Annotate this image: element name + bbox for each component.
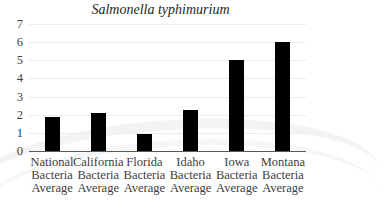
bar [45, 117, 60, 151]
plot-area: 01234567 [29, 24, 306, 151]
bar [275, 42, 290, 151]
gridline [29, 115, 306, 116]
gridline [29, 24, 306, 25]
y-tick-label: 0 [5, 145, 23, 157]
x-tick-label: MontanaBacteriaAverage [253, 156, 313, 195]
bar [229, 60, 244, 151]
gridline [29, 60, 306, 61]
chart-title: Salmonella typhimurium [0, 2, 321, 18]
gridline [29, 97, 306, 98]
bar [137, 134, 152, 151]
y-tick-label: 6 [5, 36, 23, 48]
y-tick-label: 2 [5, 109, 23, 121]
y-tick-label: 7 [5, 18, 23, 30]
gridline [29, 42, 306, 43]
y-tick-label: 1 [5, 127, 23, 139]
y-tick-label: 3 [5, 91, 23, 103]
y-tick-label: 4 [5, 72, 23, 84]
gridline [29, 78, 306, 79]
bar [91, 113, 106, 151]
gridline [29, 133, 306, 134]
x-axis-line [29, 151, 306, 152]
bar [183, 110, 198, 151]
x-tick-label-line: Average [253, 182, 313, 195]
y-tick-label: 5 [5, 54, 23, 66]
